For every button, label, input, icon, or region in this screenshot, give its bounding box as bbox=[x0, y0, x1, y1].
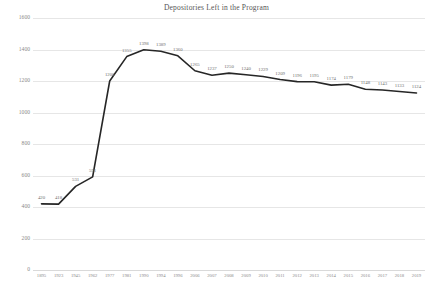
data-point-label: 1360 bbox=[166, 48, 190, 53]
data-point-label: 418 bbox=[47, 196, 71, 201]
y-axis-tick-label: 200 bbox=[2, 236, 30, 242]
x-axis-line bbox=[33, 270, 425, 271]
data-point-label: 591 bbox=[81, 169, 105, 174]
y-axis-tick-label: 1000 bbox=[2, 110, 30, 116]
gridline bbox=[33, 50, 425, 51]
y-axis-tick-label: 800 bbox=[2, 141, 30, 147]
y-axis-tick-label: 400 bbox=[2, 204, 30, 210]
data-point-label: 1200 bbox=[98, 73, 122, 78]
y-axis-tick-label: 600 bbox=[2, 173, 30, 179]
gridline bbox=[33, 144, 425, 145]
data-point-label: 531 bbox=[64, 178, 88, 183]
x-axis-tick-label: 2019 bbox=[405, 274, 427, 279]
gridline bbox=[33, 207, 425, 208]
data-point-label: 1124 bbox=[404, 85, 428, 90]
plot-area bbox=[33, 18, 425, 270]
gridline bbox=[33, 239, 425, 240]
y-axis-tick-label: 1600 bbox=[2, 15, 30, 21]
y-axis-tick-label: 0 bbox=[2, 267, 30, 273]
gridline bbox=[33, 18, 425, 19]
chart-title: Depositories Left in the Program bbox=[0, 3, 433, 12]
y-axis-tick-label: 1400 bbox=[2, 47, 30, 53]
gridline bbox=[33, 113, 425, 114]
gridline bbox=[33, 176, 425, 177]
data-point-label: 1355 bbox=[115, 49, 139, 54]
chart-container: Depositories Left in the Program 0200400… bbox=[0, 0, 433, 294]
y-axis-tick-label: 1200 bbox=[2, 78, 30, 84]
